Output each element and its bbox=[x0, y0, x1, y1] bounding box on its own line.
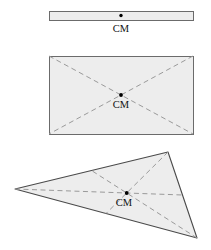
shape-rectangle: CM bbox=[49, 56, 194, 135]
thin-bar-cm-label: CM bbox=[113, 23, 130, 34]
triangle-cm-marker bbox=[125, 191, 129, 195]
thin-bar-cm-marker bbox=[119, 14, 122, 17]
rectangle-cm-label: CM bbox=[113, 99, 130, 110]
figure-canvas: CM CM CM bbox=[0, 0, 211, 250]
triangle-cm-label: CM bbox=[116, 197, 133, 208]
rectangle-cm-marker bbox=[119, 93, 123, 97]
shape-triangle: CM bbox=[15, 152, 197, 238]
center-of-mass-figure: CM CM CM bbox=[0, 0, 211, 250]
shape-thin-bar: CM bbox=[50, 12, 194, 35]
